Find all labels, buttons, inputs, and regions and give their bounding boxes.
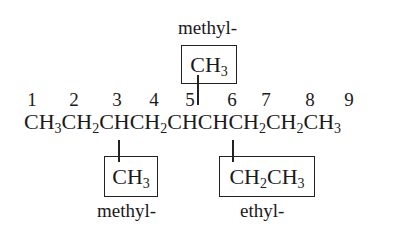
carbon-number: 1 <box>24 90 40 109</box>
chain-group-c1: CH3 <box>24 109 62 134</box>
substituent-name-bottom-methyl: methyl- <box>97 201 156 220</box>
substituent-formula: CH3 <box>190 52 228 78</box>
carbon-number: 5 <box>182 90 198 109</box>
chain-group-c8: CH2 <box>266 109 304 134</box>
substituent-box-bottom-methyl: CH3 <box>104 156 158 197</box>
substituent-box-top-methyl: CH3 <box>181 45 237 84</box>
carbon-number: 2 <box>66 90 82 109</box>
substituent-formula: CH3 <box>112 164 150 190</box>
carbon-number: 9 <box>341 90 357 109</box>
carbon-number: 3 <box>109 90 125 109</box>
substituent-box-bottom-ethyl: CH2CH3 <box>219 156 315 197</box>
carbon-number: 6 <box>224 90 240 109</box>
chain-group-c3: CH <box>99 109 130 134</box>
chain-group-c6: CH <box>198 109 229 134</box>
carbon-number: 4 <box>146 90 162 109</box>
chain-group-c5: CH <box>167 109 198 134</box>
carbon-number: 7 <box>258 90 274 109</box>
substituent-name-top-methyl: methyl- <box>178 18 237 37</box>
main-chain-formula: CH3CH2CHCH2CHCHCH2CH2CH3 <box>24 111 341 133</box>
chain-group-c9: CH3 <box>304 109 342 134</box>
carbon-number: 8 <box>302 90 318 109</box>
chain-group-c4: CH2 <box>130 109 168 134</box>
substituent-formula: CH2CH3 <box>229 164 304 190</box>
chain-group-c2: CH2 <box>62 109 100 134</box>
substituent-name-bottom-ethyl: ethyl- <box>240 201 284 220</box>
chain-group-c7: CH2 <box>228 109 266 134</box>
